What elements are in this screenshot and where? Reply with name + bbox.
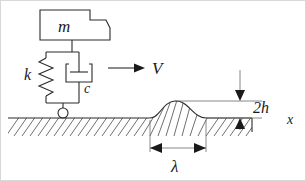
- figure-container: m k c V: [0, 0, 306, 181]
- height-dimension-upper-arrowhead: [235, 90, 245, 101]
- axis-label-x: x: [286, 112, 294, 127]
- velocity-arrow-head: [134, 64, 145, 73]
- mass-label: m: [58, 17, 70, 36]
- spring-label: k: [24, 66, 32, 83]
- wheel: [58, 108, 68, 118]
- damper-label: c: [84, 81, 91, 96]
- height-dimension-label: 2h: [253, 99, 269, 116]
- suspension-road-diagram: m k c V: [0, 0, 306, 181]
- road-profile: [8, 101, 252, 118]
- mass-block: [40, 10, 110, 40]
- spring: [39, 58, 53, 96]
- wavelength-arrowhead-left: [150, 143, 162, 153]
- wavelength-arrowhead-right: [194, 143, 206, 153]
- wavelength-label: λ: [170, 157, 178, 176]
- figure-border: [1, 1, 306, 181]
- height-dimension-lower-arrowhead: [235, 118, 245, 129]
- velocity-label: V: [152, 59, 165, 78]
